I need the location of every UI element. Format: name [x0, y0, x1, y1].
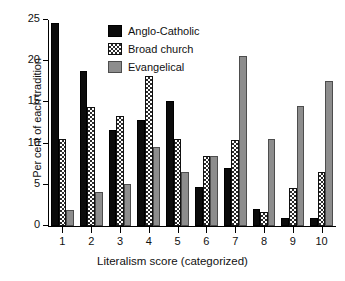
x-axis-tick-label: 5: [163, 235, 193, 248]
x-axis-tick-label: 9: [278, 235, 308, 248]
legend-item-broad-church: Broad church: [108, 40, 200, 57]
x-axis-tick: [322, 227, 323, 233]
y-axis-tick: 0: [43, 225, 48, 226]
y-axis-tick: 15: [43, 101, 48, 102]
bar-evangelical-4: [153, 147, 161, 226]
y-axis-tick-label: 15: [28, 94, 40, 106]
x-axis-tick: [235, 227, 236, 233]
y-axis-tick-label: 5: [34, 177, 40, 189]
y-axis-tick-label: 0: [34, 218, 40, 230]
bar-anglo-catholic-8: [253, 209, 261, 226]
x-axis-tick-label: 10: [307, 235, 337, 248]
legend-label: Anglo-Catholic: [128, 25, 200, 37]
y-axis-tick-label: 10: [28, 136, 40, 148]
bar-anglo-catholic-2: [80, 71, 88, 226]
x-axis-tick: [62, 227, 63, 233]
bar-evangelical-2: [95, 192, 103, 226]
bar-anglo-catholic-3: [109, 130, 117, 226]
x-axis-tick-label: 1: [47, 235, 77, 248]
legend-item-anglo-catholic: Anglo-Catholic: [108, 22, 200, 39]
x-axis-tick: [178, 227, 179, 233]
x-axis-tick-label: 6: [191, 235, 221, 248]
y-axis-tick: 20: [43, 60, 48, 61]
bar-broad-church-1: [59, 139, 67, 226]
legend-swatch-icon: [108, 61, 122, 73]
bar-broad-church-10: [318, 172, 326, 226]
x-axis-tick-label: 3: [105, 235, 135, 248]
legend-label: Broad church: [128, 43, 193, 55]
chart-legend: Anglo-CatholicBroad churchEvangelical: [108, 22, 200, 76]
y-axis-line: [48, 20, 49, 227]
bar-anglo-catholic-9: [281, 218, 289, 226]
x-axis-tick-label: 8: [249, 235, 279, 248]
bar-evangelical-9: [297, 106, 305, 226]
x-axis-tick: [91, 227, 92, 233]
x-axis-tick: [264, 227, 265, 233]
y-axis-tick: 5: [43, 184, 48, 185]
bar-evangelical-7: [239, 56, 247, 226]
bar-broad-church-6: [203, 156, 211, 226]
legend-swatch-icon: [108, 25, 122, 37]
y-axis-tick: 25: [43, 19, 48, 20]
x-axis-tick: [293, 227, 294, 233]
bar-broad-church-9: [289, 188, 297, 226]
bar-evangelical-8: [268, 139, 276, 226]
bar-broad-church-2: [87, 107, 95, 226]
bar-anglo-catholic-5: [166, 101, 174, 226]
bar-anglo-catholic-1: [51, 23, 59, 226]
x-axis-tick: [206, 227, 207, 233]
bar-anglo-catholic-7: [224, 168, 232, 226]
x-axis-tick-label: 7: [220, 235, 250, 248]
y-axis-tick-label: 25: [28, 12, 40, 24]
bar-broad-church-4: [145, 76, 153, 226]
legend-item-evangelical: Evangelical: [108, 58, 200, 75]
bar-broad-church-8: [260, 212, 268, 226]
x-axis-tick-label: 4: [134, 235, 164, 248]
bar-evangelical-5: [181, 172, 189, 226]
bar-broad-church-3: [116, 116, 124, 226]
bar-evangelical-1: [66, 210, 74, 226]
x-axis-tick-label: 2: [76, 235, 106, 248]
y-axis-tick-label: 20: [28, 53, 40, 65]
bar-evangelical-10: [325, 81, 333, 226]
legend-swatch-icon: [108, 43, 122, 55]
bar-anglo-catholic-10: [310, 218, 318, 226]
bar-evangelical-6: [210, 156, 218, 226]
bar-broad-church-7: [231, 140, 239, 226]
bar-evangelical-3: [124, 184, 132, 226]
bar-anglo-catholic-4: [137, 120, 145, 226]
x-axis-tick: [149, 227, 150, 233]
x-axis-title: Literalism score (categorized): [0, 255, 345, 267]
bar-chart-figure: Per cent of each tradition 0510152025 12…: [0, 0, 345, 281]
x-axis-tick: [120, 227, 121, 233]
bar-broad-church-5: [174, 139, 182, 226]
legend-label: Evangelical: [128, 61, 184, 73]
bar-anglo-catholic-6: [195, 187, 203, 226]
y-axis-tick: 10: [43, 143, 48, 144]
